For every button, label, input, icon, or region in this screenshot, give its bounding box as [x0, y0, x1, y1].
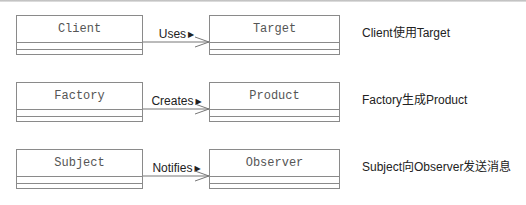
attributes-divider	[210, 109, 339, 110]
relationship-row-creates: Factory Creates▶ Product Factory生成Produc…	[0, 82, 526, 127]
association-creates: Creates▶	[143, 95, 210, 115]
class-name: Client	[17, 16, 142, 42]
relationship-description: Client使用Target	[362, 23, 450, 40]
operations-divider	[210, 49, 339, 50]
attributes-divider	[17, 176, 142, 177]
class-box-target: Target	[209, 15, 340, 55]
class-name: Observer	[210, 150, 339, 176]
operations-divider	[17, 49, 142, 50]
operations-divider	[17, 116, 142, 117]
relationship-description: Factory生成Product	[362, 90, 467, 107]
class-box-product: Product	[209, 82, 340, 122]
open-arrow-icon	[143, 168, 210, 182]
association-uses: Uses▶	[143, 28, 210, 48]
class-name: Product	[210, 83, 339, 109]
relationship-row-uses: Client Uses▶ Target Client使用Target	[0, 15, 526, 60]
association-notifies: Notifies▶	[143, 162, 210, 182]
operations-divider	[210, 183, 339, 184]
attributes-divider	[17, 109, 142, 110]
relationship-row-notifies: Subject Notifies▶ Observer Subject向Obser…	[0, 149, 526, 194]
class-name: Target	[210, 16, 339, 42]
class-box-factory: Factory	[16, 82, 143, 122]
class-name: Factory	[17, 83, 142, 109]
relationship-description: Subject向Observer发送消息	[362, 157, 511, 174]
attributes-divider	[17, 42, 142, 43]
attributes-divider	[210, 42, 339, 43]
operations-divider	[17, 183, 142, 184]
operations-divider	[210, 116, 339, 117]
class-box-observer: Observer	[209, 149, 340, 189]
attributes-divider	[210, 176, 339, 177]
class-name: Subject	[17, 150, 142, 176]
class-box-client: Client	[16, 15, 143, 55]
top-border-line	[0, 0, 526, 2]
class-box-subject: Subject	[16, 149, 143, 189]
open-arrow-icon	[143, 34, 210, 48]
open-arrow-icon	[143, 101, 210, 115]
